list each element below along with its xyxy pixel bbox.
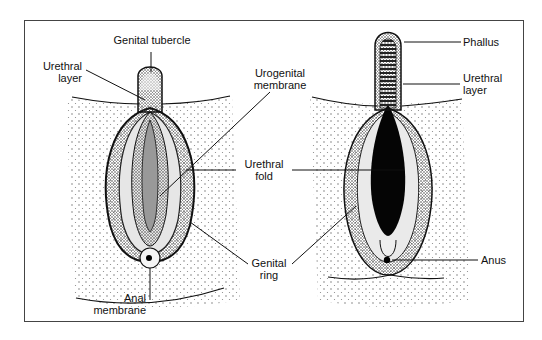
label-urethral-layer-right: Urethral layer [463, 72, 502, 96]
label-urethral-layer-left: Urethral layer [32, 60, 82, 84]
label-genital-tubercle: Genital tubercle [112, 34, 192, 46]
left-embryo-drawing [66, 67, 240, 308]
label-anal-membrane: Anal membrane [80, 292, 146, 316]
label-urethral-fold: Urethral fold [238, 158, 290, 182]
label-anus: Anus [481, 254, 506, 266]
label-phallus: Phallus [463, 36, 499, 48]
label-urogenital-membrane: Urogenital membrane [240, 67, 320, 91]
label-genital-ring: Genital ring [244, 257, 294, 281]
